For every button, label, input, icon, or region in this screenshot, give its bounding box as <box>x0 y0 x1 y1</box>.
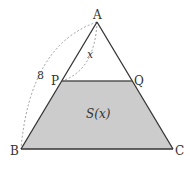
label-ab-length: 8 <box>37 69 44 82</box>
label-a: A <box>92 8 102 22</box>
label-b: B <box>10 144 19 158</box>
label-ap-length: x <box>87 48 94 61</box>
triangle-diagram: A B C P Q 8 x S(x) <box>0 0 190 169</box>
label-q: Q <box>134 74 144 88</box>
label-area: S(x) <box>86 107 111 121</box>
label-p: P <box>51 74 59 88</box>
label-c: C <box>175 144 184 158</box>
